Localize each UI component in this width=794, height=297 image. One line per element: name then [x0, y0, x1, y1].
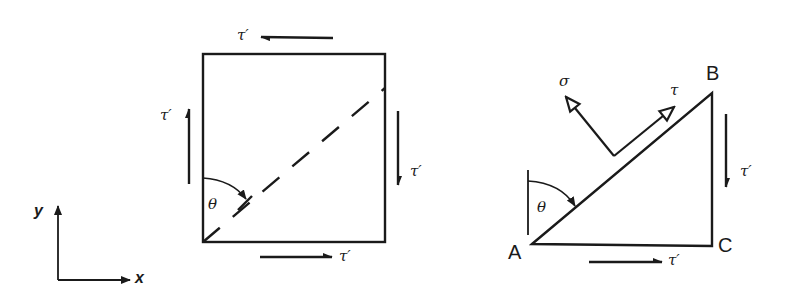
- triangle-bottom-tau-label: τ′: [668, 253, 680, 268]
- vertex-b-label: B: [706, 63, 719, 83]
- square-left-tau-label: τ′: [160, 108, 172, 123]
- triangle-element: [528, 93, 726, 262]
- vertex-c-label: C: [718, 235, 732, 255]
- x-axis-label: x: [135, 270, 144, 286]
- tau-label: τ: [670, 83, 678, 98]
- triangle-theta-label: θ: [537, 200, 546, 215]
- top-shear-arrow: [261, 37, 333, 38]
- square-outline: [203, 54, 385, 242]
- theta-arc: [528, 181, 575, 206]
- y-axis-label: y: [34, 203, 43, 219]
- triangle-right-tau-label: τ′: [740, 164, 752, 179]
- sigma-label: σ: [559, 74, 569, 89]
- square-right-tau-label: τ′: [410, 164, 422, 179]
- normal-stress-arrow: [566, 97, 614, 156]
- diagram-canvas: y x τ′ τ′ τ′ τ′ θ A B C σ τ τ′ τ′ θ: [0, 0, 794, 297]
- triangle-outline: [532, 93, 712, 246]
- square-bottom-tau-label: τ′: [339, 249, 351, 264]
- square-top-tau-label: τ′: [237, 28, 249, 43]
- coordinate-axes: [58, 206, 130, 280]
- vertex-a-label: A: [508, 242, 521, 262]
- diagonal-plane-dashed: [203, 88, 385, 242]
- square-element: [189, 37, 398, 257]
- square-theta-label: θ: [208, 197, 217, 212]
